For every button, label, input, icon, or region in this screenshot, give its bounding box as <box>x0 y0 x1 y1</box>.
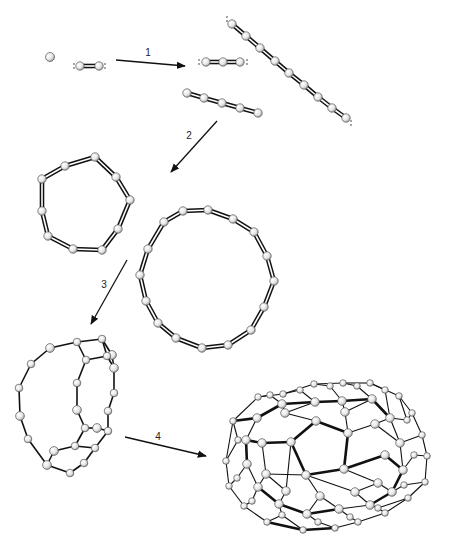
carbon-atom <box>114 225 122 233</box>
fullerene-atom <box>374 479 383 488</box>
carbon-atom <box>183 89 191 97</box>
step-label-4: 4 <box>155 431 161 442</box>
fullerene-bond <box>303 528 335 530</box>
lone-pair-dot <box>350 124 352 126</box>
fullerene-atom <box>230 418 237 425</box>
carbon-atom <box>271 57 279 65</box>
arrow-step-1 <box>116 60 185 66</box>
cage-atom <box>73 379 81 387</box>
carbon-atom <box>263 252 271 260</box>
fullerene-bond <box>226 461 229 486</box>
carbon-atom <box>76 62 84 70</box>
fullerene-atom <box>258 439 267 448</box>
fullerene-atom <box>316 492 325 501</box>
fullerene-bond <box>244 506 267 522</box>
fullerene-bond <box>344 433 348 469</box>
fullerene-atom <box>368 395 377 404</box>
carbon-atom <box>229 215 237 223</box>
fullerene-bond <box>306 475 355 492</box>
fullerene-atom <box>367 380 374 387</box>
lone-pair-dot <box>73 67 75 69</box>
fullerene-bond <box>291 442 306 475</box>
fullerene-atom <box>241 503 248 510</box>
carbon-atom <box>91 153 99 161</box>
fullerene-atom <box>335 505 344 514</box>
carbon-atom <box>270 277 278 285</box>
carbon-atom <box>219 58 227 66</box>
fullerene-atom <box>243 460 252 469</box>
cage-atom <box>43 461 52 470</box>
carbon-atom <box>154 319 162 327</box>
fullerene-bond <box>378 498 408 508</box>
carbon-atom <box>160 218 168 226</box>
fullerene-bond <box>266 474 306 475</box>
fullerene-atom <box>262 470 271 479</box>
fullerene-bond <box>344 469 378 483</box>
fullerene-atom <box>354 383 361 390</box>
fullerene-atom <box>388 488 397 497</box>
fullerene-atom <box>422 479 429 486</box>
cage-atom <box>110 389 118 397</box>
lone-pair-dot <box>246 63 248 65</box>
fullerene-atom <box>281 409 290 418</box>
fullerene-atom <box>287 438 296 447</box>
lone-pair-dot <box>350 120 352 122</box>
cage-atom <box>27 360 35 368</box>
fullerene-atom <box>303 510 312 519</box>
fullerene-atom <box>341 408 350 417</box>
step-label-1: 1 <box>145 47 151 58</box>
cage-atom <box>66 469 74 477</box>
carbon-species <box>38 16 352 352</box>
carbon-atom <box>38 175 46 183</box>
carbon-atom <box>200 94 208 102</box>
fullerene-atom <box>396 439 405 448</box>
carbon-atom <box>254 109 262 117</box>
fullerene-atom <box>327 383 334 390</box>
fullerene-atom <box>242 436 251 445</box>
carbon-atom <box>98 246 106 254</box>
cage-atom <box>50 447 59 456</box>
fullerene-bond <box>344 455 385 469</box>
fullerene-bond <box>286 442 291 491</box>
partial-cage-structure <box>15 335 118 477</box>
double-bond-gap <box>65 157 95 166</box>
carbon-atom <box>38 207 46 215</box>
fullerene-atom <box>234 475 241 482</box>
fullerene-atom <box>249 498 256 505</box>
carbon-atom <box>44 232 52 240</box>
fullerene-bond <box>307 509 339 514</box>
fullerene-atom <box>344 429 353 438</box>
lone-pair-dot <box>226 16 228 18</box>
fullerene-atom <box>275 500 284 509</box>
lone-pair-dot <box>226 20 228 22</box>
fullerene-atom <box>381 451 390 460</box>
cage-atom <box>104 407 112 415</box>
fullerene-atom <box>311 381 318 388</box>
fullerene-bond <box>339 505 370 509</box>
carbon-atom <box>202 58 210 66</box>
fullerene-bond <box>399 396 407 420</box>
carbon-atom <box>224 341 232 349</box>
fullerene-atom <box>347 514 354 521</box>
carbon-atom <box>228 20 236 28</box>
carbon-atom <box>300 81 308 89</box>
carbon-atom <box>250 228 258 236</box>
carbon-atom <box>342 114 350 122</box>
carbon-atom <box>285 69 293 77</box>
cage-atom <box>93 424 102 433</box>
fullerene-atom <box>235 437 242 444</box>
double-bond-gap <box>118 200 130 229</box>
fullerene-atom <box>382 387 389 394</box>
carbon-atom <box>144 245 152 253</box>
carbon-atom <box>328 104 336 112</box>
cage-atom <box>110 364 119 373</box>
fullerene-atom <box>338 397 347 406</box>
cage-atom <box>98 335 106 343</box>
fullerene-bond <box>425 456 427 482</box>
fullerene-atom <box>401 482 408 489</box>
fullerene-atom <box>280 391 287 398</box>
fullerene-bond <box>291 421 316 442</box>
fullerene-atom <box>375 505 382 512</box>
arrow-step-4 <box>125 437 206 456</box>
arrow-step-3 <box>91 260 127 324</box>
